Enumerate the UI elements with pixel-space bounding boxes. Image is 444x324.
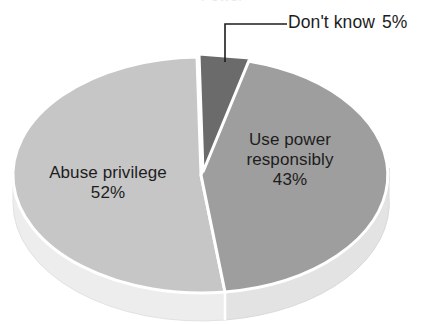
- slice-label-dont-know-text: Don't know: [288, 12, 375, 32]
- slice-value-dont-know: 5%: [382, 12, 408, 32]
- pie-chart-graphic: [0, 0, 444, 324]
- slice-label-abuse-privilege: Abuse privilege 52%: [34, 163, 182, 203]
- slice-value-abuse-privilege: 52%: [34, 183, 182, 203]
- pie-chart-figure: Power Don't know5% Use powe: [0, 0, 444, 324]
- slice-label-abuse-privilege-line1: Abuse privilege: [49, 163, 167, 182]
- slice-label-use-power: Use power responsibly 43%: [232, 130, 348, 190]
- slice-label-dont-know: Don't know5%: [288, 12, 408, 33]
- slice-label-use-power-line1: Use power: [249, 130, 331, 149]
- slice-value-use-power: 43%: [232, 170, 348, 190]
- slice-label-use-power-line2: responsibly: [232, 150, 348, 170]
